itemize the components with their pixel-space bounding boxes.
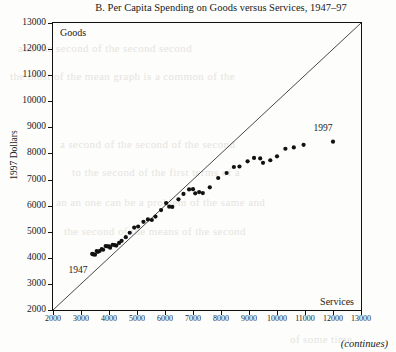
y-tick-mark <box>48 75 52 76</box>
data-point: 1976: services 6480, goods 6240 <box>176 197 180 201</box>
data-point: 1980: services 7080, goods 6470 <box>193 191 197 195</box>
y-tick-label: 12000 <box>0 44 46 54</box>
y-tick-label: 6000 <box>0 201 46 211</box>
services-axis-label: Services <box>320 296 354 307</box>
data-point: 1968: services 5230, goods 5380 <box>141 220 145 224</box>
figure-panel-b: and the second of the second secondthe m… <box>0 0 396 352</box>
data-point: 1983: services 7600, goods 6700 <box>208 185 212 189</box>
data-point: 1971: services 5660, goods 5580 <box>153 214 157 218</box>
data-point: 1954: services 3790, goods 4310 <box>101 248 105 252</box>
data-point: 1985: services 8200, goods 7250 <box>225 171 229 175</box>
data-point: 1994: services 10300, goods 8180 <box>283 147 287 151</box>
x-tick-label: 8000 <box>213 315 229 323</box>
data-point: 1982: services 7350, goods 6480 <box>201 191 205 195</box>
x-tick-label: 13000 <box>351 315 371 323</box>
x-tick-mark <box>277 311 278 315</box>
y-tick-label: 9000 <box>0 123 46 133</box>
x-tick-mark <box>305 311 306 315</box>
y-tick-mark <box>48 310 52 311</box>
data-series: 1947: services 3400, goods 41501948: ser… <box>90 140 335 257</box>
y-tick-label: 3000 <box>0 279 46 289</box>
x-tick-label: 12000 <box>323 315 343 323</box>
y-tick-mark <box>48 23 52 24</box>
x-tick-mark <box>109 311 110 315</box>
y-tick-label: 11000 <box>0 70 46 80</box>
data-point: 1981: services 7220, goods 6520 <box>197 190 201 194</box>
year-annotation: 1947 <box>68 265 87 275</box>
data-point: 1970: services 5530, goods 5450 <box>150 218 154 222</box>
y-tick-label: 13000 <box>0 18 46 28</box>
chart-title: B. Per Capita Spending on Goods versus S… <box>0 2 396 13</box>
continues-note: (continues) <box>341 338 388 349</box>
y-tick-mark <box>48 180 52 181</box>
data-point: 1977: services 6660, goods 6450 <box>181 192 185 196</box>
y-tick-mark <box>48 127 52 128</box>
x-tick-label: 9000 <box>241 315 257 323</box>
x-tick-label: 4000 <box>101 315 117 323</box>
data-point: 1972: services 5860, goods 5830 <box>159 208 163 212</box>
data-point: 1964: services 4600, goods 4790 <box>124 235 128 239</box>
data-point: 1993: services 10000, goods 7890 <box>275 154 279 158</box>
x-tick-label: 11000 <box>295 315 315 323</box>
x-tick-label: 10000 <box>267 315 287 323</box>
data-point: 1969: services 5390, goods 5470 <box>146 217 150 221</box>
forty-five-degree-reference-line <box>53 23 361 310</box>
data-point: 1996: services 10950, goods 8330 <box>302 143 306 147</box>
x-tick-mark <box>361 311 362 315</box>
goods-axis-label: Goods <box>60 27 86 38</box>
x-tick-mark <box>333 311 334 315</box>
y-tick-label: 5000 <box>0 227 46 237</box>
x-tick-mark <box>137 311 138 315</box>
data-point: 1965: services 4740, goods 4960 <box>128 231 132 235</box>
scatter-plot-canvas: 1947: services 3400, goods 41501948: ser… <box>53 23 361 310</box>
x-tick-mark <box>165 311 166 315</box>
data-point: 1995: services 10600, goods 8230 <box>292 145 296 149</box>
data-point: 1967: services 5040, goods 5200 <box>136 224 140 228</box>
y-tick-mark <box>48 284 52 285</box>
data-point: 1991: services 9500, goods 7640 <box>261 161 265 165</box>
data-point: 1990: services 9400, goods 7810 <box>258 156 262 160</box>
y-tick-label: 4000 <box>0 253 46 263</box>
y-tick-mark <box>48 101 52 102</box>
data-point: 1963: services 4450, goods 4650 <box>120 239 124 243</box>
data-point: 1984: services 7900, goods 7060 <box>216 176 220 180</box>
x-tick-mark <box>81 311 82 315</box>
data-point: 1966: services 4900, goods 5160 <box>132 225 136 229</box>
x-tick-mark <box>221 311 222 315</box>
y-tick-mark <box>48 232 52 233</box>
data-point: 1988: services 8950, goods 7700 <box>246 159 250 163</box>
data-point: 1979: services 7000, goods 6630 <box>191 187 195 191</box>
data-point: 1997: services 12000, goods 8450 <box>331 140 335 144</box>
x-tick-label: 7000 <box>185 315 201 323</box>
data-point: 1986: services 8460, goods 7480 <box>232 165 236 169</box>
x-tick-mark <box>193 311 194 315</box>
data-point: 1978: services 6860, goods 6620 <box>187 187 191 191</box>
x-tick-mark <box>53 311 54 315</box>
y-tick-label: 10000 <box>0 97 46 107</box>
year-annotation: 1997 <box>313 123 332 133</box>
data-point: 1973: services 6040, goods 6100 <box>164 201 168 205</box>
y-tick-label: 7000 <box>0 175 46 185</box>
y-tick-mark <box>48 206 52 207</box>
x-tick-mark <box>249 311 250 315</box>
y-tick-mark <box>48 49 52 50</box>
y-tick-mark <box>48 153 52 154</box>
data-point: 1975: services 6260, goods 5950 <box>170 205 174 209</box>
x-tick-label: 6000 <box>157 315 173 323</box>
plot-area: Goods Services 1947: services 3400, good… <box>52 22 362 311</box>
data-point: 1989: services 9180, goods 7830 <box>252 156 256 160</box>
y-tick-label: 2000 <box>0 305 46 315</box>
data-point: 1987: services 8660, goods 7500 <box>237 164 241 168</box>
data-point: 1992: services 9760, goods 7740 <box>268 158 272 162</box>
x-tick-label: 3000 <box>73 315 89 323</box>
x-tick-label: 5000 <box>129 315 145 323</box>
y-tick-label: 8000 <box>0 149 46 159</box>
x-tick-label: 2000 <box>45 315 61 323</box>
y-tick-mark <box>48 258 52 259</box>
